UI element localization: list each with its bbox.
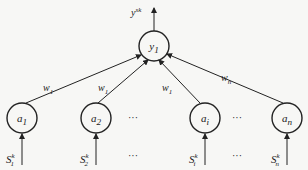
weight-label: w1: [43, 83, 53, 97]
input-label: Sk2: [80, 151, 88, 169]
output-node-label: y1: [139, 40, 169, 56]
input-node-label: a1: [7, 112, 37, 128]
input-node-label: an: [272, 112, 302, 128]
input-label: Skn: [271, 151, 279, 169]
input-label: Ski: [189, 151, 196, 169]
ellipsis: ···: [128, 150, 138, 161]
weight-label: w1: [162, 83, 172, 97]
input-label: Sk1: [6, 151, 14, 169]
output-label: ysk: [131, 5, 141, 18]
ellipsis: ···: [128, 112, 138, 123]
ellipsis: ···: [232, 150, 242, 161]
weight-label: w1: [98, 83, 108, 97]
weight-label: wn: [221, 73, 231, 87]
input-node-label: a2: [81, 112, 111, 128]
ellipsis: ···: [232, 112, 242, 123]
input-node-label: ai: [190, 112, 220, 128]
